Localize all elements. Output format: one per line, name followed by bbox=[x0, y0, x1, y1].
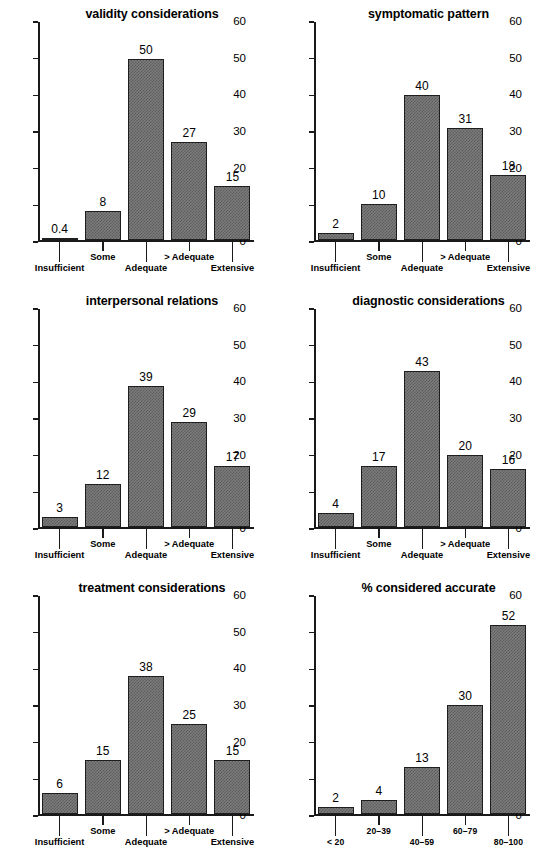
x-axis-tick bbox=[335, 816, 336, 836]
x-axis-category-label: Extensive bbox=[192, 551, 272, 560]
x-axis-category-label: 80–100 bbox=[468, 838, 548, 847]
bar[interactable] bbox=[171, 422, 207, 527]
bar-value-label: 20 bbox=[438, 440, 492, 452]
bar-value-label: 3 bbox=[33, 502, 87, 514]
x-axis-tick bbox=[102, 816, 103, 825]
bar-value-label: 18 bbox=[481, 160, 535, 172]
x-axis-tick bbox=[378, 816, 379, 825]
bar[interactable] bbox=[490, 469, 526, 527]
x-axis-tick bbox=[465, 816, 466, 825]
bar[interactable] bbox=[447, 455, 483, 528]
x-axis-categories: InsufficientSomeAdequate> AdequateExtens… bbox=[38, 529, 254, 573]
x-axis-tick bbox=[146, 816, 147, 836]
bar[interactable] bbox=[85, 760, 121, 815]
bar-series: 615382515 bbox=[38, 596, 254, 814]
x-axis-category-label: Some bbox=[63, 827, 143, 836]
x-axis-category-label: Insufficient bbox=[20, 838, 100, 847]
x-axis-category-label: > Adequate bbox=[149, 827, 229, 836]
x-axis-tick bbox=[146, 529, 147, 549]
x-axis-tick bbox=[422, 529, 423, 549]
chart-panel-symptomatic-pattern: symptomatic pattern010203040506021040311… bbox=[276, 0, 553, 287]
x-axis-category-label: Adequate bbox=[106, 838, 186, 847]
bar-value-label: 8 bbox=[76, 196, 130, 208]
bar-series: 312392917 bbox=[38, 309, 254, 527]
chart-panel-treatment-considerations: treatment considerations0102030405060615… bbox=[0, 574, 276, 861]
x-axis-tick bbox=[508, 529, 509, 549]
bar-series: 417432016 bbox=[314, 309, 530, 527]
bar[interactable] bbox=[318, 807, 354, 814]
x-axis-category-label: Extensive bbox=[468, 551, 548, 560]
x-axis-category-label: Adequate bbox=[106, 551, 186, 560]
bar[interactable] bbox=[361, 204, 397, 240]
x-axis-category-label: Extensive bbox=[192, 838, 272, 847]
bar[interactable] bbox=[128, 676, 164, 814]
x-axis-category-label: < 20 bbox=[296, 838, 376, 847]
bar-value-label: 25 bbox=[162, 709, 216, 721]
bar-series: 210403118 bbox=[314, 22, 530, 240]
bar[interactable] bbox=[42, 238, 78, 241]
bar[interactable] bbox=[85, 211, 121, 240]
bar[interactable] bbox=[490, 175, 526, 240]
bar[interactable] bbox=[128, 386, 164, 528]
bar[interactable] bbox=[85, 484, 121, 528]
bar-value-label: 0.4 bbox=[33, 223, 87, 235]
x-axis-tick bbox=[232, 529, 233, 549]
bar-value-label: 12 bbox=[76, 469, 130, 481]
bar-value-label: 31 bbox=[438, 113, 492, 125]
bar-value-label: 29 bbox=[162, 407, 216, 419]
bar[interactable] bbox=[214, 186, 250, 241]
x-axis-category-label: Insufficient bbox=[296, 551, 376, 560]
x-axis-categories: InsufficientSomeAdequate> AdequateExtens… bbox=[38, 242, 254, 286]
x-axis-tick bbox=[508, 816, 509, 836]
bar[interactable] bbox=[404, 95, 440, 240]
bar[interactable] bbox=[318, 233, 354, 240]
bar-value-label: 15 bbox=[205, 745, 259, 757]
x-axis-category-label: > Adequate bbox=[149, 253, 229, 262]
bar-value-label: 15 bbox=[205, 171, 259, 183]
x-axis-category-label: Insufficient bbox=[296, 264, 376, 273]
x-axis-tick bbox=[102, 529, 103, 538]
bar[interactable] bbox=[404, 371, 440, 527]
bar[interactable] bbox=[171, 142, 207, 240]
plot-area: 0102030405060312392917 bbox=[38, 309, 254, 529]
bar[interactable] bbox=[214, 466, 250, 528]
bar[interactable] bbox=[404, 767, 440, 814]
x-axis-category-label: > Adequate bbox=[425, 540, 505, 549]
bar[interactable] bbox=[447, 128, 483, 241]
bar[interactable] bbox=[42, 793, 78, 815]
bar-value-label: 38 bbox=[119, 661, 173, 673]
chart-panel-interpersonal-relations: interpersonal relations01020304050603123… bbox=[0, 287, 276, 574]
bar-value-label: 16 bbox=[481, 454, 535, 466]
x-axis-tick bbox=[59, 816, 60, 836]
x-axis-categories: InsufficientSomeAdequate> AdequateExtens… bbox=[314, 242, 530, 286]
bar[interactable] bbox=[128, 59, 164, 241]
x-axis-tick bbox=[189, 816, 190, 825]
bar-value-label: 2 bbox=[309, 218, 363, 230]
bar[interactable] bbox=[447, 705, 483, 814]
x-axis-tick bbox=[146, 242, 147, 262]
bar-value-label: 17 bbox=[205, 451, 259, 463]
chart-grid: validity considerations01020304050600.48… bbox=[0, 0, 553, 861]
x-axis-category-label: Extensive bbox=[192, 264, 272, 273]
bar[interactable] bbox=[214, 760, 250, 815]
x-axis-tick bbox=[232, 242, 233, 262]
bar[interactable] bbox=[171, 724, 207, 815]
x-axis-tick bbox=[465, 242, 466, 251]
x-axis-category-label: > Adequate bbox=[149, 540, 229, 549]
bar[interactable] bbox=[490, 625, 526, 814]
bar[interactable] bbox=[361, 800, 397, 815]
bar[interactable] bbox=[42, 517, 78, 528]
bar-value-label: 15 bbox=[76, 745, 130, 757]
x-axis-tick bbox=[508, 242, 509, 262]
plot-area: 0102030405060210403118 bbox=[314, 22, 530, 242]
x-axis-category-label: 60–79 bbox=[425, 827, 505, 836]
x-axis-category-label: Some bbox=[339, 540, 419, 549]
bar[interactable] bbox=[361, 466, 397, 528]
plot-area: 010203040506024133052 bbox=[314, 596, 530, 816]
x-axis-category-label: Some bbox=[63, 253, 143, 262]
bar[interactable] bbox=[318, 513, 354, 528]
plot-area: 0102030405060417432016 bbox=[314, 309, 530, 529]
bar-series: 24133052 bbox=[314, 596, 530, 814]
x-axis-tick bbox=[102, 242, 103, 251]
x-axis-category-label: Some bbox=[339, 253, 419, 262]
